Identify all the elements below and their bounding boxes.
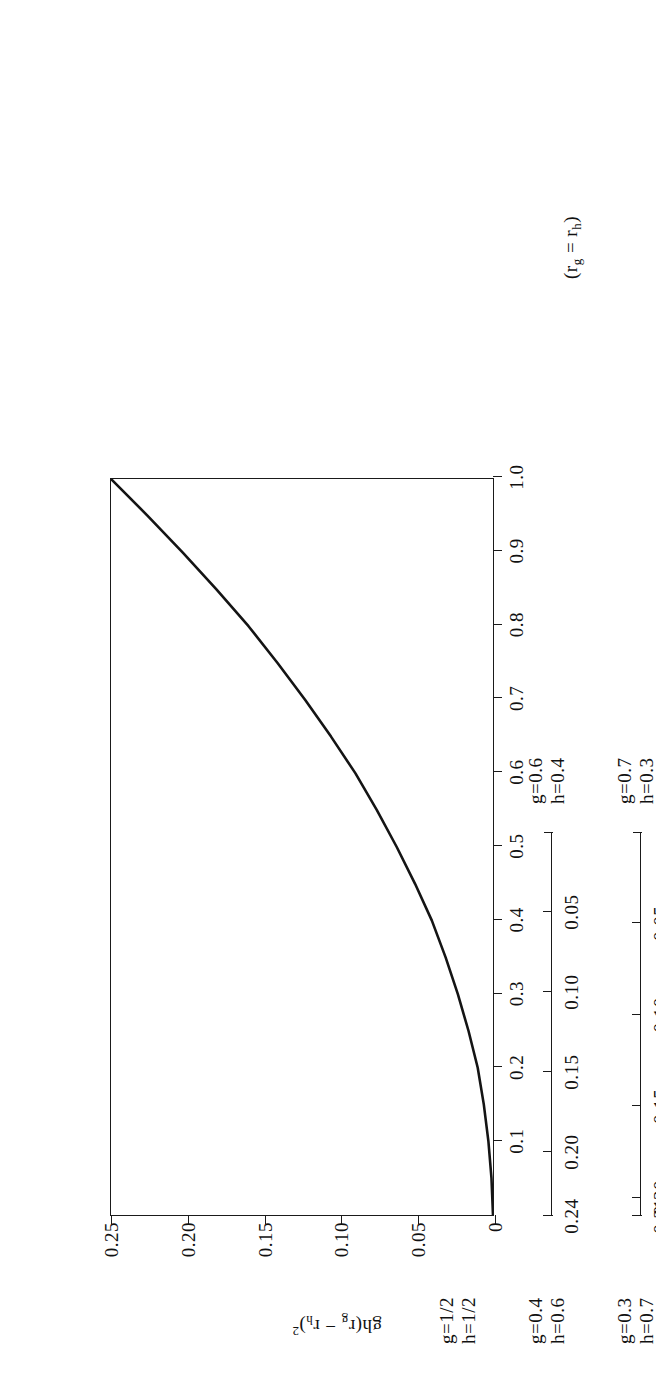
x-tick-label: 0.9 xyxy=(507,538,526,563)
y-tick-label: 0.10 xyxy=(332,1222,351,1257)
y-tick-label: 0 xyxy=(486,1222,505,1232)
x-tick-label: 0.2 xyxy=(507,1055,526,1080)
h-value-label: h=1/2 xyxy=(458,1297,480,1344)
h-value-label: h=0.7 xyxy=(636,1298,656,1344)
g-value-label: g=0.3 xyxy=(614,1298,636,1344)
x-tick-mark xyxy=(493,993,502,994)
x-tick-label: 0.4 xyxy=(507,907,526,932)
aux-tick-mark xyxy=(632,1014,641,1015)
aux-tick-label: 0.15 xyxy=(562,1054,581,1089)
gh-label-pair: g=0.4h=0.6 xyxy=(525,1298,570,1344)
x-tick-label: 1.0 xyxy=(507,464,526,489)
aux-tick-mark xyxy=(543,991,552,992)
data-curve xyxy=(111,479,493,1215)
h-value-label: h=0.3 xyxy=(636,758,656,804)
aux-tick-label: 0.10 xyxy=(562,974,581,1009)
figure-canvas: gh(rg − rh)2 0.250.200.150.100.050 0.10.… xyxy=(0,0,656,1384)
gh-label-pair: g=0.6h=0.4 xyxy=(525,758,570,804)
aux-scale-end-cap-right xyxy=(544,832,553,833)
gh-label-pair: g=0.7h=0.3 xyxy=(614,758,656,804)
y-axis-title: gh(rg − rh)2 xyxy=(302,1313,382,1338)
gh-label-pair: g=1/2h=1/2 xyxy=(436,1297,481,1344)
x-tick-mark xyxy=(493,476,502,477)
aux-tick-mark xyxy=(543,911,552,912)
aux-scale-axis: 0.240.200.150.100.05 xyxy=(551,832,552,1216)
aux-tick-label: 0.15 xyxy=(651,1089,656,1124)
y-tick-label: 0.05 xyxy=(409,1222,428,1257)
x-tick-mark xyxy=(493,919,502,920)
x-tick-mark xyxy=(493,1140,502,1141)
y-axis-title-text: gh(rg − rh)2 xyxy=(292,1317,382,1338)
x-tick-label: 0.1 xyxy=(507,1129,526,1154)
y-tick-label: 0.20 xyxy=(178,1222,197,1257)
x-tick-label: 0.6 xyxy=(507,760,526,785)
x-tick-mark xyxy=(493,697,502,698)
g-value-label: g=0.6 xyxy=(525,758,547,804)
y-tick-label: 0.25 xyxy=(102,1222,121,1257)
x-tick-mark xyxy=(493,845,502,846)
x-tick-label: 0.8 xyxy=(507,612,526,637)
y-tick-label: 0.15 xyxy=(255,1222,274,1257)
aux-tick-label: 0.10 xyxy=(651,997,656,1032)
x-tick-label: 0.5 xyxy=(507,833,526,858)
aux-tick-label: 0.24 xyxy=(562,1198,581,1233)
aux-tick-mark xyxy=(632,1215,641,1216)
aux-tick-mark xyxy=(543,1071,552,1072)
aux-tick-mark xyxy=(632,922,641,923)
aux-tick-label: 0.20 xyxy=(562,1134,581,1169)
aux-tick-label: 0.20 xyxy=(651,1180,656,1215)
g-value-label: g=1/2 xyxy=(436,1297,458,1344)
aux-tick-mark xyxy=(632,1105,641,1106)
x-tick-mark xyxy=(493,771,502,772)
aux-scale-axis: 0.210.200.150.100.05 xyxy=(640,832,641,1216)
aux-tick-label: 0.05 xyxy=(562,894,581,929)
h-value-label: h=0.6 xyxy=(547,1298,569,1344)
aux-tick-mark xyxy=(543,1215,552,1216)
h-value-label: h=0.4 xyxy=(547,758,569,804)
curve-path xyxy=(111,479,493,1215)
x-axis-title-text: (rg = rh) xyxy=(560,216,581,279)
plot-frame: 0.250.200.150.100.050 0.10.20.30.40.50.6… xyxy=(110,478,494,1216)
aux-tick-label: 0.05 xyxy=(651,906,656,941)
aux-tick-mark xyxy=(632,1197,641,1198)
gh-label-pair: g=0.3h=0.7 xyxy=(614,1298,656,1344)
aux-tick-mark xyxy=(543,1151,552,1152)
x-tick-mark xyxy=(493,1066,502,1067)
g-value-label: g=0.7 xyxy=(614,758,636,804)
g-value-label: g=0.4 xyxy=(525,1298,547,1344)
x-tick-mark xyxy=(493,624,502,625)
x-tick-label: 0.3 xyxy=(507,981,526,1006)
x-tick-label: 0.7 xyxy=(507,686,526,711)
x-axis-title: (rg = rh) xyxy=(560,216,585,279)
aux-scale-end-cap-right xyxy=(633,832,642,833)
x-tick-mark xyxy=(493,550,502,551)
